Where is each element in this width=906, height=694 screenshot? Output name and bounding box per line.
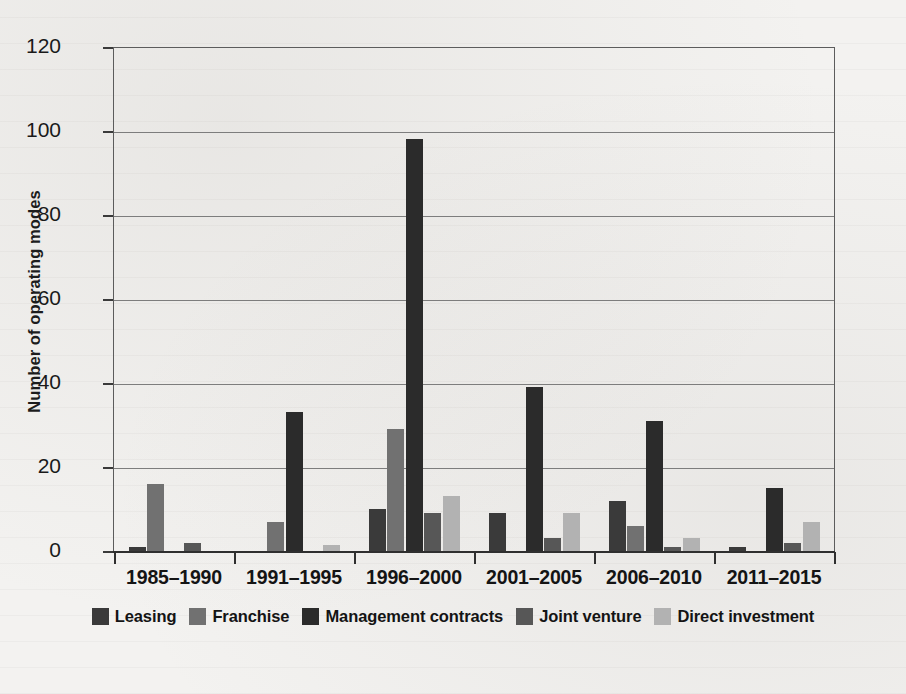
bar <box>489 513 506 551</box>
bar <box>387 429 404 551</box>
x-axis-tick-mark <box>834 552 836 564</box>
bar <box>147 484 164 551</box>
y-axis-tick-label: 80 <box>0 202 61 226</box>
bar <box>544 538 561 551</box>
x-axis-tick-mark <box>114 552 116 564</box>
legend-label: Leasing <box>115 607 177 626</box>
y-axis-tick-label: 40 <box>0 370 61 394</box>
legend-label: Management contracts <box>325 607 503 626</box>
y-axis-tick-label: 100 <box>0 118 61 142</box>
bar <box>424 513 441 551</box>
legend-swatch <box>654 608 671 625</box>
bar <box>784 543 801 551</box>
bar <box>286 412 303 551</box>
y-axis-tick-label: 60 <box>0 286 61 310</box>
x-axis-tick-mark <box>354 552 356 564</box>
bar <box>646 421 663 551</box>
bar <box>369 509 386 551</box>
x-axis-tick-mark <box>594 552 596 564</box>
bar <box>443 496 460 551</box>
x-axis-tick-mark <box>714 552 716 564</box>
legend-item: Direct investment <box>654 607 814 626</box>
bar-chart-figure: Number of operating modes 12010080604020… <box>0 0 906 694</box>
y-axis-tick-label: 120 <box>0 34 61 58</box>
legend-item: Management contracts <box>302 607 503 626</box>
x-axis-tick-mark <box>234 552 236 564</box>
legend-label: Joint venture <box>539 607 641 626</box>
chart-legend: LeasingFranchiseManagement contractsJoin… <box>0 607 906 626</box>
bar <box>766 488 783 551</box>
legend-swatch <box>92 608 109 625</box>
x-axis-tick-label: 2011–2015 <box>694 566 854 589</box>
bar <box>563 513 580 551</box>
bar <box>683 538 700 551</box>
x-axis-tick-mark <box>474 552 476 564</box>
bar <box>526 387 543 551</box>
bar <box>803 522 820 551</box>
legend-item: Leasing <box>92 607 177 626</box>
bar <box>267 522 284 551</box>
legend-swatch <box>302 608 319 625</box>
y-axis-tick-label: 0 <box>0 538 61 562</box>
bar <box>609 501 626 551</box>
legend-item: Franchise <box>189 607 289 626</box>
bar <box>184 543 201 551</box>
bar <box>627 526 644 551</box>
legend-label: Franchise <box>212 607 289 626</box>
legend-swatch <box>516 608 533 625</box>
legend-item: Joint venture <box>516 607 641 626</box>
legend-label: Direct investment <box>677 607 814 626</box>
legend-swatch <box>189 608 206 625</box>
bar-group-layer <box>114 47 834 551</box>
y-axis-tick-label: 20 <box>0 454 61 478</box>
bar <box>406 139 423 551</box>
